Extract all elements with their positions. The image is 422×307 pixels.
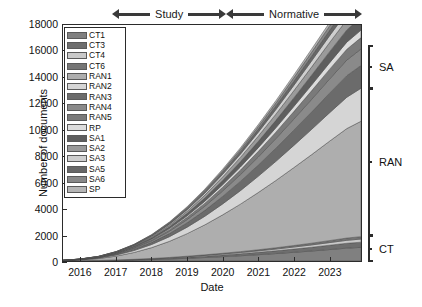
annotation-label: Normative [264,9,324,20]
x-axis-tick-label: 2021 [247,266,270,278]
legend-item-ran3[interactable]: RAN3 [67,92,123,102]
annotation-normative-arrow: Normative [226,6,362,22]
y-axis-tick-label: 6000 [35,177,58,189]
figure-stacked-area-chart: Study Normative Number of documents Date… [0,0,422,307]
y-axis-tick-label: 18000 [29,18,58,30]
x-axis-tick-label: 2022 [282,266,305,278]
legend-item-ct3[interactable]: CT3 [67,40,123,50]
legend-item-sa5[interactable]: SA5 [67,164,123,174]
legend-label: RAN5 [89,113,112,122]
x-axis-tick-mark [116,257,117,262]
legend-swatch [67,176,87,183]
legend-item-ran1[interactable]: RAN1 [67,71,123,81]
x-axis-tick-label: 2019 [175,266,198,278]
legend-swatch [67,166,87,173]
y-axis-tick-label: 2000 [35,230,58,242]
legend: CT1CT3CT4CT6RAN1RAN2RAN3RAN4RAN5RPSA1SA2… [64,27,126,198]
x-axis-tick-label: 2016 [68,266,91,278]
legend-label: CT6 [89,62,105,71]
legend-item-sa6[interactable]: SA6 [67,174,123,184]
bracket-cap-top [368,45,373,47]
y-axis-tick-label: 8000 [35,150,58,162]
y-axis-tick-mark [62,209,67,210]
bracket-cap-bottom [368,260,373,262]
x-axis-tick-label: 2017 [104,266,127,278]
x-axis-label: Date [62,281,362,293]
legend-item-ct1[interactable]: CT1 [67,30,123,40]
legend-label: SP [89,185,100,194]
legend-swatch [67,135,87,142]
arrow-left-head-icon [226,9,233,19]
legend-label: RP [89,124,101,133]
legend-swatch [67,145,87,152]
legend-swatch [67,32,87,39]
legend-label: RAN3 [89,93,112,102]
arrow-left-head-icon [112,9,119,19]
legend-item-sa2[interactable]: SA2 [67,143,123,153]
legend-swatch [67,155,87,162]
y-axis-tick-label: 10000 [29,124,58,136]
legend-swatch [67,93,87,100]
legend-swatch [67,63,87,70]
y-axis-tick-label: 4000 [35,203,58,215]
arrow-shaft [119,13,150,16]
y-axis-tick-label: 14000 [29,71,58,83]
bracket-mid-tick [368,161,372,163]
x-axis-tick-label: 2020 [211,266,234,278]
x-axis-tick-mark [151,257,152,262]
legend-label: RAN1 [89,72,112,81]
annotation-study-arrow: Study [112,6,226,22]
arrow-right-head-icon [355,9,362,19]
x-axis-tick-mark [80,257,81,262]
bracket-cap-top [368,236,373,238]
y-axis-label-wrapper: Number of documents [10,24,24,262]
y-axis-tick-label: 12000 [29,97,58,109]
y-axis-tick-label: 16000 [29,44,58,56]
x-axis-tick-mark [187,257,188,262]
y-axis-tick-mark [62,262,67,263]
bracket-mid-tick [368,66,372,68]
legend-swatch [67,104,87,111]
legend-label: RAN4 [89,103,112,112]
y-axis-label: Number of documents [37,63,49,223]
arrow-shaft [324,13,355,16]
x-axis-tick-mark [330,257,331,262]
legend-item-ct4[interactable]: CT4 [67,51,123,61]
legend-item-sa1[interactable]: SA1 [67,133,123,143]
x-axis-tick-mark [258,257,259,262]
x-axis-tick-label: 2018 [140,266,163,278]
legend-swatch [67,42,87,49]
legend-label: SA6 [89,175,105,184]
legend-item-ran4[interactable]: RAN4 [67,102,123,112]
legend-item-sa3[interactable]: SA3 [67,154,123,164]
annotation-label: Study [150,9,188,20]
legend-swatch [67,73,87,80]
group-bracket-label: CT [379,243,394,255]
legend-item-ran2[interactable]: RAN2 [67,81,123,91]
legend-label: SA3 [89,154,105,163]
legend-label: CT3 [89,41,105,50]
arrow-shaft [188,13,219,16]
group-bracket-label: SA [379,61,394,73]
legend-item-rp[interactable]: RP [67,123,123,133]
legend-swatch [67,186,87,193]
legend-item-sp[interactable]: SP [67,184,123,194]
bracket-mid-tick [368,248,372,250]
y-axis-tick-label: 0 [52,256,58,268]
arrow-shaft [233,13,264,16]
bracket-cap-top [368,89,373,91]
legend-swatch [67,124,87,131]
legend-swatch [67,52,87,59]
legend-label: SA1 [89,134,105,143]
arrow-right-head-icon [219,9,226,19]
legend-item-ran5[interactable]: RAN5 [67,112,123,122]
legend-item-ct6[interactable]: CT6 [67,61,123,71]
legend-label: RAN2 [89,82,112,91]
y-axis-tick-mark [62,24,67,25]
legend-swatch [67,114,87,121]
legend-swatch [67,83,87,90]
group-bracket-label: RAN [379,156,402,168]
y-axis-tick-mark [62,236,67,237]
legend-label: SA5 [89,165,105,174]
x-axis-tick-mark [294,257,295,262]
